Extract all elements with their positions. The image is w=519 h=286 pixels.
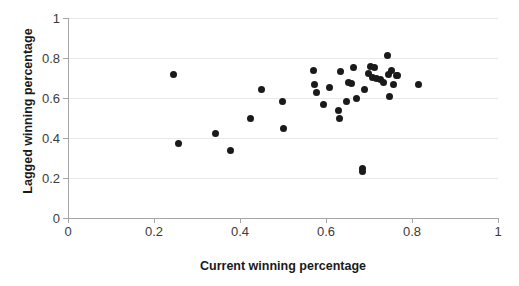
data-point: [359, 168, 366, 175]
gridline: [68, 58, 498, 59]
x-tick-label: 0.8: [390, 225, 434, 238]
data-point: [337, 68, 344, 75]
data-point: [343, 98, 350, 105]
data-point: [386, 93, 393, 100]
x-tick: [154, 218, 155, 223]
x-tick-label: 0.4: [218, 225, 262, 238]
x-tick-label: 0.6: [304, 225, 348, 238]
y-tick: [63, 98, 68, 99]
data-point: [175, 140, 182, 147]
data-point: [390, 81, 397, 88]
x-axis-line: [68, 218, 498, 219]
x-tick: [498, 218, 499, 223]
x-tick-label: 0.2: [132, 225, 176, 238]
data-point: [361, 86, 368, 93]
x-tick: [240, 218, 241, 223]
y-tick-label: 0: [20, 212, 60, 225]
data-point: [311, 81, 318, 88]
data-point: [247, 115, 254, 122]
plot-area: [68, 18, 498, 218]
y-axis-line: [68, 18, 69, 219]
data-point: [371, 64, 378, 71]
data-point: [380, 79, 387, 86]
x-axis-title: Current winning percentage: [68, 259, 498, 273]
y-tick: [63, 58, 68, 59]
data-point: [227, 147, 234, 154]
data-point: [310, 67, 317, 74]
x-tick: [68, 218, 69, 223]
data-point: [170, 71, 177, 78]
data-point: [279, 98, 286, 105]
gridline: [68, 138, 498, 139]
data-point: [326, 84, 333, 91]
y-tick-labels: 00.20.40.60.81: [12, 0, 60, 286]
x-tick: [326, 218, 327, 223]
scatter-chart: 00.20.40.60.81 00.20.40.60.81 Current wi…: [0, 0, 519, 286]
x-tick-label: 0: [46, 225, 90, 238]
y-axis-title: Lagged winning percentage: [21, 11, 35, 211]
y-tick: [63, 138, 68, 139]
gridline: [68, 18, 498, 19]
data-point: [350, 64, 357, 71]
data-point: [212, 130, 219, 137]
data-point: [348, 80, 355, 87]
data-point: [394, 72, 401, 79]
data-point: [320, 101, 327, 108]
data-point: [258, 86, 265, 93]
data-point: [336, 115, 343, 122]
y-tick: [63, 178, 68, 179]
x-tick: [412, 218, 413, 223]
y-tick: [63, 18, 68, 19]
data-point: [313, 89, 320, 96]
data-point: [280, 125, 287, 132]
gridline: [68, 178, 498, 179]
data-point: [353, 95, 360, 102]
x-tick-label: 1: [476, 225, 519, 238]
data-point: [415, 81, 422, 88]
data-point: [384, 52, 391, 59]
data-point: [335, 107, 342, 114]
